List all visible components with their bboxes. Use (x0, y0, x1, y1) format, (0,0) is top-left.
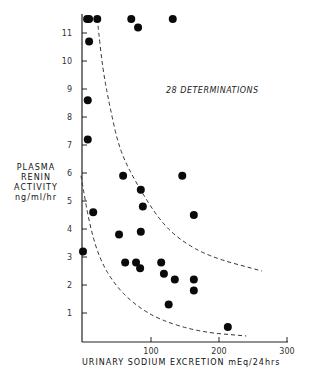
data-point (160, 270, 168, 278)
y-axis-title-line: ACTIVITY (0, 183, 72, 193)
x-tick-label: 300 (279, 347, 294, 356)
data-point (157, 259, 165, 267)
data-point (127, 15, 135, 23)
x-ticks: 100200300 (143, 337, 294, 356)
x-axis-title: URINARY SODIUM EXCRETION mEq/24hrs (82, 358, 280, 367)
y-tick-label: 7 (67, 141, 72, 150)
data-point (190, 287, 198, 295)
y-axis-title-line: ng/ml/hr (0, 193, 72, 203)
x-tick-label: 100 (143, 347, 158, 356)
data-point (224, 323, 232, 331)
dashed-boundary-curves (81, 19, 262, 336)
data-point (178, 172, 186, 180)
y-tick-label: 2 (67, 281, 72, 290)
y-tick-label: 1 (67, 309, 72, 318)
data-point (137, 186, 145, 194)
y-tick-label: 8 (67, 113, 72, 122)
data-point (139, 203, 147, 211)
y-axis-title: PLASMA RENIN ACTIVITY ng/ml/hr (0, 163, 72, 203)
data-point (137, 228, 145, 236)
y-axis-title-line: PLASMA (0, 163, 72, 173)
y-tick-label: 4 (67, 225, 72, 234)
y-tick-label: 9 (67, 85, 72, 94)
data-point (165, 301, 173, 309)
data-point (85, 15, 93, 23)
y-axis-title-line: RENIN (0, 173, 72, 183)
x-tick-label: 200 (211, 347, 226, 356)
data-point (93, 15, 101, 23)
y-tick-label: 11 (62, 29, 72, 38)
annotation-determinations: 28 DETERMINATIONS (166, 86, 259, 95)
y-tick-label: 10 (62, 57, 72, 66)
data-point (119, 172, 127, 180)
data-point (84, 96, 92, 104)
data-point (171, 275, 179, 283)
y-tick-label: 3 (67, 253, 72, 262)
lower-bound-curve (81, 176, 246, 336)
data-point (89, 208, 97, 216)
data-point (85, 37, 93, 45)
data-point (190, 211, 198, 219)
data-point (134, 23, 142, 31)
data-point (190, 275, 198, 283)
data-point (169, 15, 177, 23)
data-point (136, 264, 144, 272)
data-point (84, 135, 92, 143)
data-point (115, 231, 123, 239)
data-point (121, 259, 129, 267)
data-point (79, 247, 87, 255)
